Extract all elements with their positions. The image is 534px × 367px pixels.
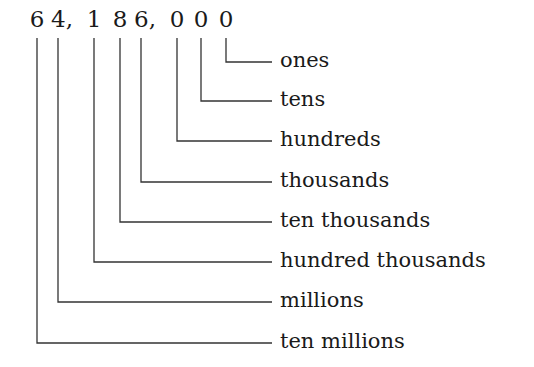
label-thousands: thousands [280,168,389,192]
label-ones: ones [280,48,329,72]
label-tens: tens [280,87,325,111]
label-ten-thousands: ten thousands [280,208,430,232]
label-hundred-thousands: hundred thousands [280,248,486,272]
label-ten-millions: ten millions [280,329,405,353]
connector-line [141,38,272,182]
connector-line [37,38,272,343]
connector-line [94,38,272,262]
connector-line [226,38,272,62]
connector-line [177,38,272,141]
label-millions: millions [280,288,364,312]
connector-lines [0,0,534,367]
label-hundreds: hundreds [280,127,381,151]
connector-line [120,38,272,222]
connector-line [201,38,272,101]
